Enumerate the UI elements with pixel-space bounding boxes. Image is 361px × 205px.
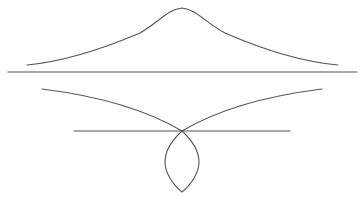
curve-diagram (0, 0, 361, 205)
background (0, 0, 361, 205)
diagram-canvas (0, 0, 361, 205)
